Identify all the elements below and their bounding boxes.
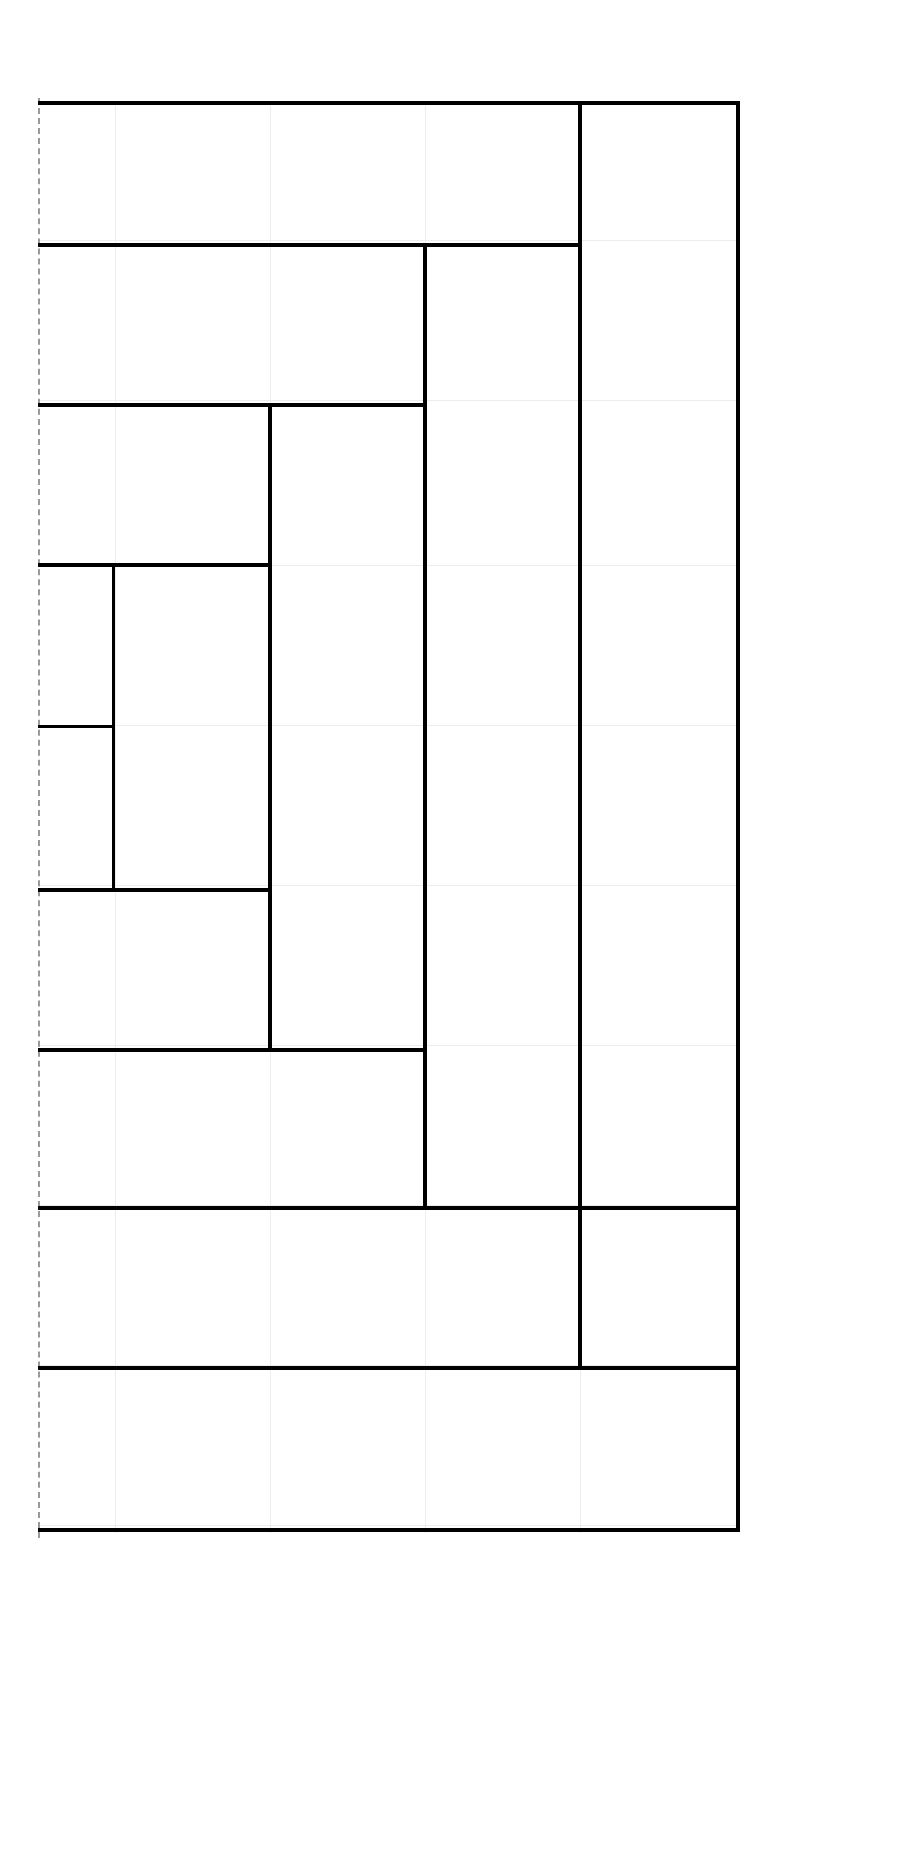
gridline-horizontal <box>38 885 740 886</box>
diagram-canvas <box>0 0 923 1868</box>
partition-rule-vertical <box>112 563 115 891</box>
axis-spine-left-dashed <box>38 98 40 1538</box>
partition-rule-horizontal <box>38 243 580 247</box>
gridline-vertical <box>115 103 116 1533</box>
gridline-horizontal <box>38 400 740 401</box>
gridline-horizontal <box>38 1045 740 1046</box>
partition-rule-vertical <box>423 243 427 1208</box>
gridline-horizontal <box>38 240 740 241</box>
partition-rule-horizontal <box>38 1206 740 1210</box>
partition-rule-horizontal <box>38 1366 740 1370</box>
partition-rule-vertical <box>578 101 582 1369</box>
partition-rule-horizontal <box>38 725 114 728</box>
partition-rule-horizontal <box>38 888 270 892</box>
partition-rule-vertical <box>736 101 740 1532</box>
gridline-horizontal <box>38 1525 740 1526</box>
partition-rule-horizontal <box>38 1048 425 1052</box>
partition-rule-horizontal <box>38 101 740 105</box>
partition-rule-horizontal <box>38 403 425 407</box>
partition-rule-horizontal <box>38 1528 740 1532</box>
partition-rule-vertical <box>268 403 272 1051</box>
partition-rule-horizontal <box>38 563 270 567</box>
gridline-horizontal <box>38 725 740 726</box>
